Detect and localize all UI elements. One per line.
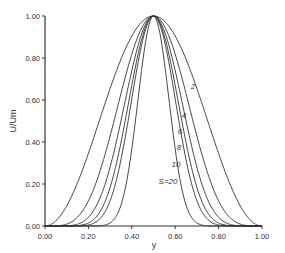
y-tick-label: 0.00 [25, 222, 40, 231]
y-tick-label: 0.40 [25, 138, 40, 147]
curve-6 [45, 16, 262, 226]
y-axis-label: U/Um [8, 110, 18, 133]
curve-S=20 [45, 16, 262, 226]
curve-2 [45, 16, 262, 226]
y-tick-label: 0.60 [25, 96, 40, 105]
chart: 0.000.200.400.600.801.000.000.200.400.60… [0, 0, 285, 253]
curve-8 [45, 16, 262, 226]
y-tick-label: 0.20 [25, 180, 40, 189]
x-tick-label: 0.20 [81, 232, 96, 241]
x-axis-label: y [152, 240, 157, 250]
curve-4 [45, 16, 262, 226]
curve-label: 2 [190, 82, 196, 91]
curve-label: S=20 [159, 177, 178, 186]
y-tick-label: 1.00 [25, 12, 40, 21]
axes: 0.000.200.400.600.801.000.000.200.400.60… [25, 12, 269, 242]
x-tick-label: 0.80 [211, 232, 226, 241]
curve-label: 8 [177, 143, 182, 152]
x-tick-label: 0.40 [124, 232, 139, 241]
curve-label: 6 [178, 127, 183, 136]
curve-label: 10 [172, 160, 181, 169]
x-tick-label: 1.00 [255, 232, 270, 241]
y-tick-label: 0.80 [25, 54, 40, 63]
curve-10 [45, 16, 262, 226]
x-tick-label: 0.60 [168, 232, 183, 241]
curve-label: 4 [182, 111, 187, 120]
x-tick-label: 0.00 [38, 232, 53, 241]
curves [45, 16, 262, 226]
